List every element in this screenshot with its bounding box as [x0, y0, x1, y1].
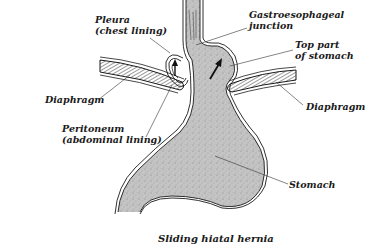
label-peritoneum-line1: Peritoneum: [62, 124, 162, 135]
label-ge-junction-line1: Gastroesophageal: [249, 10, 344, 21]
label-pleura-line1: Pleura: [95, 15, 167, 26]
label-top-stomach-line1: Top part: [295, 40, 354, 51]
diaphragm-right: [226, 67, 296, 95]
diagram-caption-text: Sliding hiatal hernia: [158, 234, 274, 245]
label-diaphragm-left: Diaphragm: [45, 95, 104, 106]
label-top-stomach: Top part of stomach: [295, 40, 354, 61]
label-pleura: Pleura (chest lining): [95, 15, 167, 36]
label-stomach: Stomach: [289, 180, 335, 191]
label-diaphragm-right: Diaphragm: [306, 102, 365, 113]
label-top-stomach-line2: of stomach: [295, 51, 354, 62]
label-stomach-text: Stomach: [289, 180, 335, 191]
label-ge-junction: Gastroesophageal junction: [249, 10, 344, 31]
label-diaphragm-left-text: Diaphragm: [45, 95, 104, 106]
label-peritoneum: Peritoneum (abdominal lining): [62, 124, 162, 145]
diagram-caption: Sliding hiatal hernia: [158, 234, 274, 245]
label-peritoneum-line2: (abdominal lining): [62, 135, 162, 146]
label-ge-junction-line2: junction: [249, 21, 344, 32]
label-diaphragm-right-text: Diaphragm: [306, 102, 365, 113]
label-pleura-line2: (chest lining): [95, 26, 167, 37]
hiatal-hernia-illustration: [0, 0, 379, 246]
hernia-arrow-left: [172, 59, 178, 76]
